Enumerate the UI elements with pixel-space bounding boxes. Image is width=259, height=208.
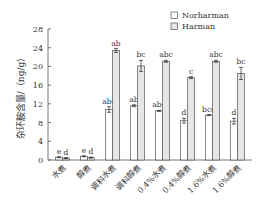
legend-label-harman: Harman xyxy=(182,22,215,31)
bar-norharman xyxy=(231,121,238,160)
significance-label: bc xyxy=(236,57,245,66)
bar-harman xyxy=(188,78,195,160)
x-tick-label: 水煮 xyxy=(50,162,68,180)
bar-harman xyxy=(213,61,220,160)
y-tick-label: 16 xyxy=(33,81,43,90)
bar-harman xyxy=(163,61,170,160)
y-tick-label: 24 xyxy=(33,44,43,53)
significance-label: d xyxy=(64,148,69,157)
y-axis-label: 杂环胺含量/（ng/g） xyxy=(15,53,26,139)
bar-norharman xyxy=(131,106,138,160)
significance-label: abc xyxy=(209,50,222,59)
bar-harman xyxy=(138,66,145,160)
bar-norharman xyxy=(106,109,113,160)
bar-norharman xyxy=(156,111,163,160)
y-tick-label: 12 xyxy=(33,100,43,109)
bar-norharman xyxy=(181,121,188,160)
significance-label: e xyxy=(82,146,87,155)
y-tick-label: 4 xyxy=(38,137,43,146)
significance-label: d xyxy=(232,108,237,117)
significance-label: ab xyxy=(111,39,120,48)
bar-chart: 0481216202428水煮醇煮调料水煮调料醇煮0.4%水煮0.4%醇煮1.6… xyxy=(0,0,259,208)
y-tick-label: 8 xyxy=(38,119,43,128)
bars: ededabcababbcabcabcdcbcdabcdbc xyxy=(56,39,246,160)
bar-harman xyxy=(113,51,120,160)
significance-label: e xyxy=(57,147,62,156)
x-tick-label: 调料水煮 xyxy=(88,162,118,192)
x-tick-label: 醇煮 xyxy=(75,162,93,180)
y-tick-label: 20 xyxy=(33,62,43,71)
y-tick-label: 0 xyxy=(38,156,43,165)
bar-harman xyxy=(238,73,245,160)
significance-label: abc xyxy=(159,50,172,59)
significance-label: d xyxy=(182,108,187,117)
chart-canvas: 0481216202428水煮醇煮调料水煮调料醇煮0.4%水煮0.4%醇煮1.6… xyxy=(0,0,259,208)
legend-swatch-harman xyxy=(171,23,178,30)
legend: NorharmanHarman xyxy=(171,11,229,31)
bar-norharman xyxy=(206,115,213,160)
significance-label: c xyxy=(189,67,193,76)
significance-label: bc xyxy=(136,50,145,59)
y-tick-label: 28 xyxy=(33,25,43,34)
legend-label-norharman: Norharman xyxy=(182,11,229,20)
legend-swatch-norharman xyxy=(171,12,178,19)
significance-label: d xyxy=(89,147,94,156)
